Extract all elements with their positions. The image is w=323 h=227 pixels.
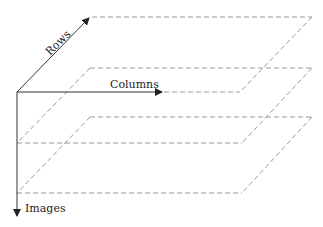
plane-3	[17, 117, 312, 193]
plane-2	[17, 68, 312, 143]
columns-label: Columns	[110, 78, 159, 91]
images-label: Images	[25, 202, 66, 215]
tensor-diagram: Rows Columns Images	[0, 0, 323, 227]
rows-label: Rows	[43, 27, 74, 58]
